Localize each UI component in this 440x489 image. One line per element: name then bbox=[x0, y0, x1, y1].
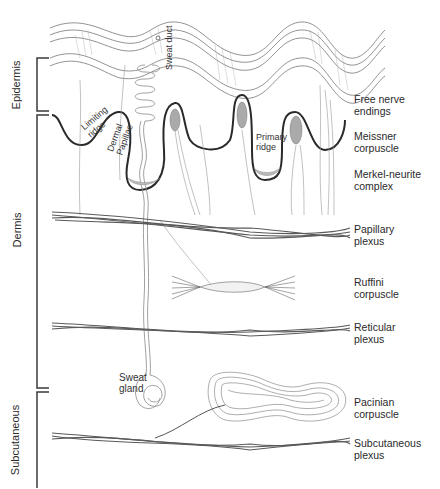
label-merkel-neurite-complex: Merkel-neuritecomplex bbox=[354, 168, 421, 192]
label-primary-ridge: Primary ridge bbox=[256, 132, 287, 152]
label-papillary-plexus: Papillaryplexus bbox=[354, 223, 394, 247]
layer-label-subcutaneous: Subcutaneous bbox=[9, 405, 21, 475]
layer-label-dermis: Dermis bbox=[11, 213, 23, 248]
nerve-fibers bbox=[79, 65, 334, 290]
ruffini-corpuscle bbox=[172, 276, 295, 300]
label-free-nerve-endings: Free nerveendings bbox=[354, 93, 405, 117]
label-sweat-duct: Sweat duct bbox=[164, 25, 174, 70]
reticular-plexus bbox=[52, 323, 350, 336]
label-sweat-gland: Sweat gland bbox=[119, 372, 147, 394]
label-pacinian-corpuscle: Paciniancorpuscle bbox=[354, 396, 399, 420]
label-ruffini-corpuscle: Ruffinicorpuscle bbox=[354, 276, 399, 300]
layer-brackets bbox=[37, 58, 49, 488]
subcutaneous-plexus bbox=[52, 433, 350, 450]
label-subcutaneous-plexus: Subcutaneousplexus bbox=[354, 437, 421, 461]
papillary-plexus bbox=[52, 212, 350, 238]
label-reticular-plexus: Reticularplexus bbox=[354, 321, 395, 345]
pacinian-corpuscle bbox=[155, 372, 346, 438]
stratum-hatching bbox=[75, 28, 348, 90]
layer-label-epidermis: Epidermis bbox=[10, 61, 22, 110]
label-meissner-corpuscle: Meissnercorpuscle bbox=[354, 130, 399, 154]
